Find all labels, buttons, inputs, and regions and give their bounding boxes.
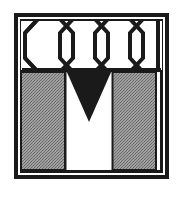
right-column <box>112 72 156 170</box>
emblem-graphic <box>0 0 182 198</box>
left-column <box>21 72 65 170</box>
emblem-canvas: Monogram M Emblem Square double-ruled fr… <box>0 0 182 198</box>
honeycomb-band <box>21 19 162 72</box>
